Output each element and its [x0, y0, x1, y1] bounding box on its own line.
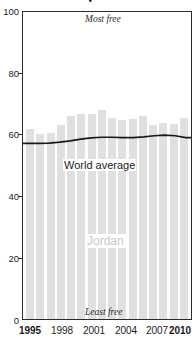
- annotation-most-free: Most free: [85, 14, 121, 24]
- x-axis-tick-label-2010: 2010: [169, 325, 191, 336]
- x-axis-tick-label-2001: 2001: [83, 325, 105, 336]
- series-label-world-average: World average: [63, 159, 136, 171]
- y-axis-tick-label-100: 100: [3, 6, 19, 17]
- chart-title-cropped: y: [86, 0, 95, 2]
- y-axis-tick-label-0: 0: [14, 315, 19, 326]
- x-axis-tick-label-1998: 1998: [51, 325, 73, 336]
- x-axis-tick-label-2004: 2004: [115, 325, 137, 336]
- plot-area: Most free Least free Jordan World averag…: [22, 11, 192, 320]
- series-label-jordan: Jordan: [85, 234, 126, 248]
- x-axis-tick-label-2007: 2007: [146, 325, 168, 336]
- annotation-least-free: Least free: [85, 307, 122, 317]
- economic-freedom-chart: y 100 80 60 40 20 0 Most free Least free…: [0, 0, 195, 343]
- x-axis-tick-label-1995: 1995: [19, 325, 41, 336]
